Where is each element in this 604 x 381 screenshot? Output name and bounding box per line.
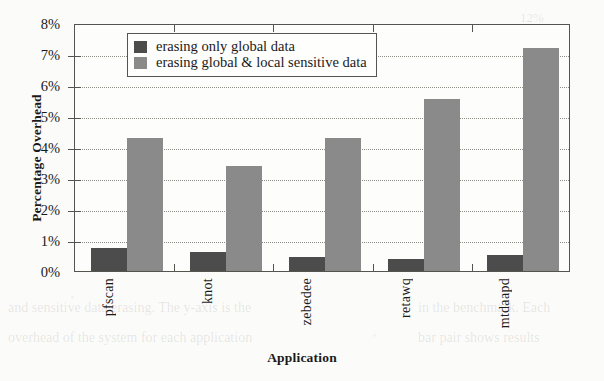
legend-swatch-dark <box>134 41 147 53</box>
x-axis-tick <box>472 264 473 271</box>
legend-swatch-light <box>134 57 147 69</box>
y-axis-tick <box>68 180 75 181</box>
bar-retawq-series-1 <box>388 259 424 271</box>
legend-label: erasing global & local sensitive data <box>156 55 367 70</box>
bar-zebedee-series-2 <box>325 138 361 271</box>
bar-knot-series-1 <box>190 252 226 271</box>
x-axis-tick <box>373 264 374 271</box>
chart-legend: erasing only global dataerasing global &… <box>127 33 377 77</box>
x-axis-tick <box>174 25 175 32</box>
y-axis-tick-inner <box>75 149 81 150</box>
x-axis-label-pfscan: pfscan <box>101 278 117 316</box>
y-axis-tick <box>68 56 75 57</box>
y-axis-tick-label: 7% <box>41 47 60 64</box>
y-axis-tick-inner <box>75 211 81 212</box>
x-axis-label-knot: knot <box>200 278 216 304</box>
y-axis-tick <box>68 87 75 88</box>
y-axis-tick-labels: 0%1%2%3%4%5%6%7%8% <box>0 24 68 272</box>
x-axis-tick <box>472 25 473 32</box>
y-axis-tick <box>68 149 75 150</box>
x-axis-tick <box>273 25 274 32</box>
y-axis-tick-label: 2% <box>41 202 60 219</box>
y-axis-tick-label: 3% <box>41 171 60 188</box>
y-axis-tick-label: 8% <box>41 16 60 33</box>
y-axis-tick <box>68 211 75 212</box>
legend-label: erasing only global data <box>156 39 295 54</box>
x-axis-label-zebedee: zebedee <box>299 278 315 325</box>
bar-pfscan-series-1 <box>91 248 127 271</box>
x-axis-tick <box>273 264 274 271</box>
bar-chart: Percentage Overhead 0%1%2%3%4%5%6%7%8% p… <box>0 0 604 381</box>
y-axis-tick-inner <box>75 118 81 119</box>
x-axis-tick <box>373 25 374 32</box>
legend-entry-2: erasing global & local sensitive data <box>134 55 367 70</box>
y-axis-tick-label: 6% <box>41 78 60 95</box>
bar-zebedee-series-1 <box>289 257 325 271</box>
x-axis-label-mtdaapd: mtdaapd <box>497 278 513 328</box>
x-axis-title: Application <box>0 350 604 366</box>
y-axis-tick-label: 4% <box>41 140 60 157</box>
x-axis-tick <box>174 264 175 271</box>
y-axis-tick-inner <box>75 56 81 57</box>
bar-retawq-series-2 <box>424 99 460 271</box>
y-axis-tick <box>68 242 75 243</box>
x-axis-label-retawq: retawq <box>398 278 414 318</box>
bar-pfscan-series-2 <box>127 138 163 271</box>
y-axis-tick-inner <box>75 242 81 243</box>
gridline <box>75 87 569 88</box>
legend-entry-1: erasing only global data <box>134 39 367 54</box>
bar-mtdaapd-series-2 <box>523 48 559 271</box>
gridline <box>75 118 569 119</box>
bar-mtdaapd-series-1 <box>487 255 523 271</box>
y-axis-tick-label: 0% <box>41 264 60 281</box>
y-axis-tick <box>68 118 75 119</box>
bar-knot-series-2 <box>226 166 262 271</box>
y-axis-tick-inner <box>75 180 81 181</box>
y-axis-tick-inner <box>75 87 81 88</box>
y-axis-tick-label: 5% <box>41 109 60 126</box>
y-axis-tick-label: 1% <box>41 233 60 250</box>
